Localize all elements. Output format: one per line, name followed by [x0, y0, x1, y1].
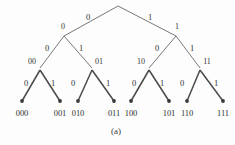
- tree-diagram-svg: [0, 0, 235, 145]
- leaf-label-111: 111: [217, 109, 229, 118]
- edge-root-to-0: [64, 6, 118, 36]
- leaf-dot-010: [76, 99, 80, 103]
- edge-01-to-010: [78, 70, 92, 101]
- edge-label-root-0: 0: [86, 13, 90, 22]
- leaf-dot-000: [20, 99, 24, 103]
- edge-0-to-00: [40, 36, 64, 68]
- edge-11-to-110: [187, 70, 200, 101]
- node-label-11: 11: [203, 58, 211, 66]
- edge-label-00-000: 0: [24, 79, 28, 88]
- edge-01-to-011: [92, 70, 114, 101]
- leaf-dot-110: [185, 99, 189, 103]
- edge-label-00-001: 1: [51, 79, 55, 88]
- figure-caption: (a): [111, 127, 121, 136]
- edge-label-root-1: 1: [148, 13, 152, 22]
- leaf-label-010: 010: [72, 109, 84, 118]
- leaf-dot-001: [58, 99, 62, 103]
- leaf-dot-111: [221, 99, 225, 103]
- leaf-label-001: 001: [54, 109, 66, 118]
- leaf-label-110: 110: [181, 109, 193, 118]
- edge-label-1-11: 1: [190, 44, 194, 53]
- edge-label-1-10: 0: [155, 44, 159, 53]
- node-label-00: 00: [28, 58, 36, 66]
- leaf-label-000: 000: [16, 109, 28, 118]
- node-label-1: 1: [175, 23, 179, 31]
- edge-label-0-01: 1: [79, 44, 83, 53]
- edge-label-01-011: 1: [106, 79, 110, 88]
- edge-label-10-100: 0: [132, 79, 136, 88]
- leaf-dot-100: [129, 99, 133, 103]
- edge-label-11-110: 0: [180, 79, 184, 88]
- edge-label-11-111: 1: [214, 79, 218, 88]
- edge-1-to-11: [176, 36, 200, 68]
- edge-11-to-111: [200, 70, 223, 101]
- edge-label-01-010: 0: [71, 79, 75, 88]
- leaf-label-101: 101: [163, 109, 175, 118]
- node-label-10: 10: [137, 58, 145, 66]
- node-label-0: 0: [61, 23, 65, 31]
- leaf-dot-101: [167, 99, 171, 103]
- node-label-01: 01: [95, 58, 103, 66]
- edge-label-10-101: 1: [160, 79, 164, 88]
- leaf-label-011: 011: [108, 109, 120, 118]
- edge-1-to-10: [149, 36, 176, 68]
- binary-tree-figure: 0 1 0 1 0 1 0 1 00 01 10 11 0 1 0 1 0 1 …: [0, 0, 235, 145]
- leaf-label-100: 100: [125, 109, 137, 118]
- leaf-dot-011: [112, 99, 116, 103]
- edge-label-0-00: 0: [45, 44, 49, 53]
